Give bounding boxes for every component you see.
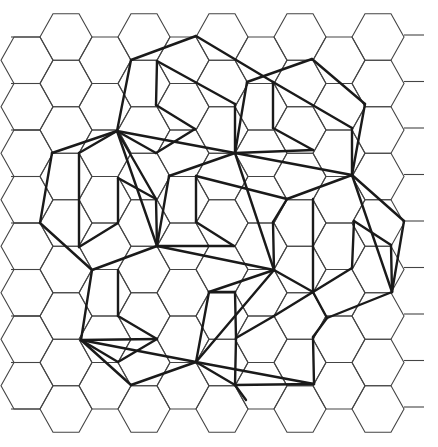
hex-cell xyxy=(274,386,326,433)
hex-cell xyxy=(40,386,92,433)
hex-cell xyxy=(1,130,53,177)
tiling-edge xyxy=(313,337,314,384)
hex-cell xyxy=(196,14,248,61)
tiling-edge xyxy=(40,223,92,270)
hex-cell xyxy=(196,153,248,200)
hex-cell xyxy=(313,37,365,84)
tiling-edge xyxy=(327,292,392,318)
tiling-edge xyxy=(235,153,274,270)
hex-cell xyxy=(352,200,404,247)
hex-cell xyxy=(313,363,365,410)
hex-cell xyxy=(352,293,404,340)
tiling-edge xyxy=(81,270,92,340)
hex-cell xyxy=(313,84,365,131)
hex-cell xyxy=(40,14,92,61)
hex-cell xyxy=(196,60,248,107)
hex-cell xyxy=(40,107,92,154)
hex-cell xyxy=(118,386,170,433)
hex-cell xyxy=(79,177,131,224)
hex-cell xyxy=(1,270,53,317)
hex-cell xyxy=(40,60,92,107)
hex-cell xyxy=(79,84,131,131)
tiling-edge xyxy=(196,176,287,199)
hex-cell xyxy=(313,177,365,224)
hex-cell xyxy=(274,153,326,200)
tiling-edge xyxy=(92,246,157,270)
hex-cell xyxy=(118,14,170,61)
tiling-edge xyxy=(273,222,274,270)
tiling-edge xyxy=(313,268,352,292)
hex-cell xyxy=(352,153,404,200)
hex-cell xyxy=(235,177,287,224)
tiling-edge xyxy=(157,61,235,104)
hex-cell xyxy=(196,246,248,292)
hex-cell xyxy=(274,14,326,61)
hex-cell xyxy=(40,246,92,292)
hex-cell xyxy=(352,14,404,61)
hex-cell xyxy=(274,60,326,107)
tiling-edge xyxy=(274,292,313,316)
hex-cell xyxy=(1,37,53,84)
hex-cell xyxy=(79,363,131,410)
tiling-edge xyxy=(156,61,157,105)
hex-cell xyxy=(40,200,92,247)
hex-cell xyxy=(352,339,404,386)
tiling-edge xyxy=(313,318,327,337)
hex-cell xyxy=(1,84,53,131)
tiling-edge xyxy=(312,59,365,104)
tiling-edge xyxy=(235,385,246,400)
hex-cell xyxy=(313,223,365,270)
tiling-edge xyxy=(235,150,313,153)
tiling-edge xyxy=(391,245,392,292)
tiling-edge xyxy=(131,362,196,385)
tiling-edge xyxy=(273,82,352,128)
tiling-edge xyxy=(313,292,327,318)
tiling-edge xyxy=(156,105,195,129)
tiling-edge xyxy=(273,199,287,222)
hex-cell xyxy=(1,223,53,270)
tiling-edge xyxy=(235,338,236,385)
tiling-edge xyxy=(157,246,274,270)
hex-cell xyxy=(40,339,92,386)
hex-cell xyxy=(1,363,53,410)
tiling-edge xyxy=(169,153,235,176)
hex-cell xyxy=(274,107,326,154)
hex-cell xyxy=(313,316,365,363)
hex-cell xyxy=(235,270,287,317)
hex-cell xyxy=(157,84,209,131)
tiling-edge xyxy=(81,339,157,340)
tiling-edge xyxy=(352,221,354,268)
hex-cell xyxy=(118,246,170,292)
tiling-edge xyxy=(247,59,312,82)
tiling-edge xyxy=(235,292,236,338)
tiling-edge xyxy=(81,340,131,385)
hex-cell xyxy=(157,270,209,317)
tiling-edge xyxy=(354,221,391,245)
tiling-edge xyxy=(131,36,196,60)
hexagonal-grid xyxy=(1,14,424,433)
hex-cell xyxy=(79,37,131,84)
tiling-edge xyxy=(196,36,273,82)
tiling-edge xyxy=(235,153,352,175)
tiling-overlay xyxy=(40,36,404,400)
tiling-edge xyxy=(156,199,157,246)
tiling-edge xyxy=(235,384,314,385)
hex-cell xyxy=(1,316,53,363)
tiling-edge xyxy=(287,175,352,199)
hex-tiling-figure xyxy=(0,0,438,447)
hex-cell xyxy=(157,363,209,410)
hex-cell xyxy=(352,386,404,433)
